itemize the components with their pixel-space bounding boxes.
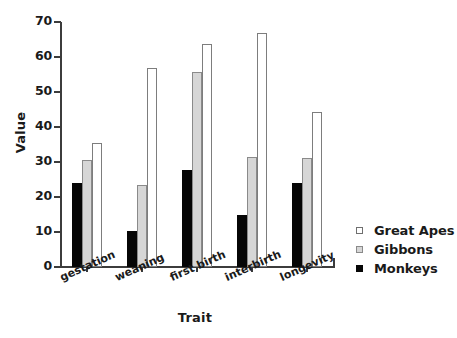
bar-gibbons[interactable] xyxy=(82,160,92,267)
y-axis-tick-label: 50 xyxy=(18,85,52,98)
bar-gibbons[interactable] xyxy=(137,185,147,267)
y-axis-tick-label: 30 xyxy=(18,155,52,168)
bar-great-apes[interactable] xyxy=(147,68,157,268)
y-axis-tick-label: 60 xyxy=(18,50,52,63)
bar-monkeys[interactable] xyxy=(292,183,302,267)
legend-swatch-icon-monkeys xyxy=(356,265,363,272)
bar-gibbons[interactable] xyxy=(192,72,202,267)
legend-item-great-apes[interactable]: Great Apes xyxy=(356,222,454,239)
legend-item-gibbons[interactable]: Gibbons xyxy=(356,241,454,258)
bar-monkeys[interactable] xyxy=(72,183,82,267)
bar-gibbons[interactable] xyxy=(247,157,257,267)
bar-great-apes[interactable] xyxy=(312,112,322,267)
legend-swatch-icon-gibbons xyxy=(356,246,363,253)
legend-label-monkeys: Monkeys xyxy=(374,261,438,276)
bar-monkeys[interactable] xyxy=(237,215,247,268)
y-axis-tick-label: 0 xyxy=(18,260,52,273)
bar-group xyxy=(182,22,212,267)
legend-item-monkeys[interactable]: Monkeys xyxy=(356,260,454,277)
plot-area xyxy=(60,22,335,267)
bar-group xyxy=(127,22,157,267)
bar-great-apes[interactable] xyxy=(92,143,102,267)
legend: Great Apes Gibbons Monkeys xyxy=(356,222,454,279)
legend-swatch-icon-great-apes xyxy=(356,227,363,234)
y-axis-tick-label: 40 xyxy=(18,120,52,133)
legend-label-great-apes: Great Apes xyxy=(374,223,454,238)
bar-group xyxy=(72,22,102,267)
y-axis-tick-label: 10 xyxy=(18,225,52,238)
legend-label-gibbons: Gibbons xyxy=(374,242,433,257)
bar-group xyxy=(292,22,322,267)
y-axis-tick-label: 20 xyxy=(18,190,52,203)
y-axis-title: Value xyxy=(13,103,28,163)
bar-chart: Value 010203040506070 gestationweaningfi… xyxy=(0,0,457,338)
bar-gibbons[interactable] xyxy=(302,158,312,267)
bar-monkeys[interactable] xyxy=(182,170,192,267)
y-axis-tick-label: 70 xyxy=(18,15,52,28)
bar-great-apes[interactable] xyxy=(257,33,267,268)
bar-great-apes[interactable] xyxy=(202,44,212,267)
x-axis-title: Trait xyxy=(140,310,250,325)
bar-group xyxy=(237,22,267,267)
